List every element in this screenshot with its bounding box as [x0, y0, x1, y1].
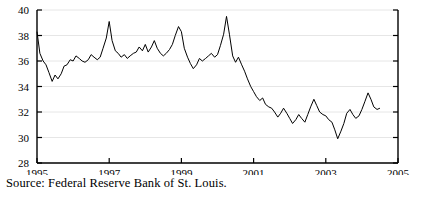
y-axis-tick-label: 34 — [18, 81, 30, 93]
x-axis-tick-label: 2005 — [387, 167, 410, 175]
x-tick-marks-group — [37, 158, 398, 163]
chart-figure: 28303234363840 199519971999200120032005 … — [0, 0, 424, 197]
y-axis-tick-label: 30 — [18, 132, 30, 144]
x-axis-tick-label: 1995 — [26, 167, 49, 175]
data-series-line — [37, 16, 380, 138]
y-axis-tick-label: 40 — [18, 4, 30, 16]
source-caption: Source: Federal Reserve Bank of St. Loui… — [6, 176, 418, 191]
chart-plot-area: 28303234363840 199519971999200120032005 — [0, 0, 424, 175]
x-axis-tick-label: 1997 — [98, 167, 121, 175]
line-chart-svg: 28303234363840 199519971999200120032005 — [0, 0, 424, 175]
y-axis-tick-labels-group: 28303234363840 — [18, 4, 30, 169]
x-axis-tick-label: 1999 — [170, 167, 193, 175]
x-axis-tick-label: 2001 — [243, 167, 265, 175]
x-axis-tick-labels-group: 199519971999200120032005 — [26, 167, 410, 175]
y-axis-tick-label: 36 — [18, 55, 30, 67]
y-axis-tick-label: 38 — [18, 30, 30, 42]
y-axis-tick-label: 32 — [18, 106, 29, 118]
x-axis-tick-label: 2003 — [315, 167, 338, 175]
gridlines-group — [37, 10, 398, 138]
